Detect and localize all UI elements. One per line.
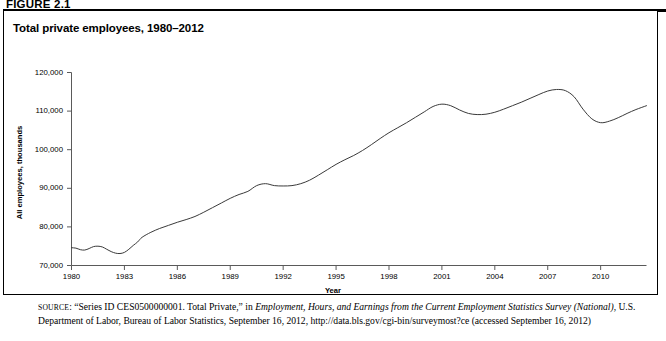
- x-tick-label: 2007: [523, 272, 573, 281]
- x-tick-label: 1980: [47, 272, 97, 281]
- x-tick-label: 1992: [258, 272, 308, 281]
- figure-container: FIGURE 2.1 Total private employees, 1980…: [0, 0, 666, 341]
- y-tick-label: 80,000: [7, 222, 63, 231]
- x-tick-label: 1986: [152, 272, 202, 281]
- y-tick-label: 70,000: [7, 261, 63, 270]
- source-text-part1: “Series ID CES0500000001. Total Private,…: [74, 301, 255, 312]
- x-tick-label: 2001: [417, 272, 467, 281]
- y-tick-label: 120,000: [7, 68, 63, 77]
- x-tick-label: 2004: [470, 272, 520, 281]
- y-tick-label: 100,000: [7, 145, 63, 154]
- x-tick-label: 2010: [576, 272, 626, 281]
- x-tick-label: 1998: [364, 272, 414, 281]
- source-prefix: source: [38, 303, 69, 312]
- x-tick-label: 1983: [99, 272, 149, 281]
- y-tick-label: 110,000: [7, 106, 63, 115]
- y-tick-label: 90,000: [7, 183, 63, 192]
- axis-lines: [72, 73, 647, 266]
- data-line: [72, 89, 647, 253]
- data-series-group: [72, 89, 647, 253]
- source-text-italic: Employment, Hours, and Earnings from the…: [255, 301, 614, 312]
- x-tick-label: 1989: [205, 272, 255, 281]
- source-note: source: “Series ID CES0500000001. Total …: [38, 301, 656, 327]
- line-chart-plot: [0, 0, 666, 341]
- x-tick-label: 1995: [311, 272, 361, 281]
